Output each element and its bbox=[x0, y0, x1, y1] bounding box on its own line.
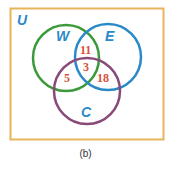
set-w-label: W bbox=[56, 28, 71, 44]
region-e-c-count: 18 bbox=[97, 71, 109, 85]
region-w-e-count: 11 bbox=[80, 43, 91, 57]
region-w-e-c-count: 3 bbox=[83, 60, 89, 74]
set-c-label: C bbox=[81, 104, 92, 120]
set-e-label: E bbox=[105, 28, 115, 44]
universe-label: U bbox=[17, 12, 28, 28]
region-w-c-count: 5 bbox=[64, 71, 70, 85]
venn-diagram: U W E C 11 3 5 18 bbox=[0, 0, 171, 171]
figure-caption: (b) bbox=[0, 148, 171, 159]
